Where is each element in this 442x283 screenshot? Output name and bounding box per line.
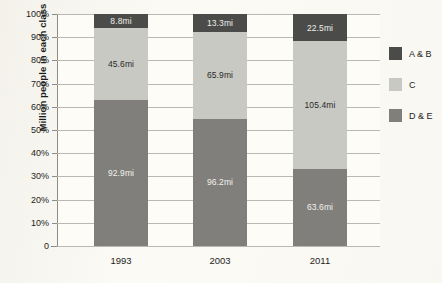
y-axis-tick-label: 30%	[31, 171, 49, 181]
legend-swatch	[389, 78, 402, 91]
bar-segment-value: 13.3mi	[207, 18, 233, 28]
bar-segment-value: 105.4mi	[305, 100, 336, 110]
bar-segment-a-b[interactable]: 8.8mi	[94, 14, 148, 28]
x-axis-label-1993: 1993	[94, 255, 148, 266]
y-axis-tick	[52, 153, 57, 154]
bar-segment-value: 63.6mi	[307, 202, 333, 212]
y-axis-tick	[52, 130, 57, 131]
y-axis-tick	[52, 60, 57, 61]
legend-swatch	[389, 109, 402, 122]
bar-segment-a-b[interactable]: 13.3mi	[193, 14, 247, 32]
x-axis-label-2003: 2003	[193, 255, 247, 266]
legend-item-a-b[interactable]: A & B	[389, 47, 433, 60]
bar-segment-value: 22.5mi	[307, 23, 333, 33]
bar-segment-d-e[interactable]: 63.6mi	[293, 169, 347, 246]
y-axis-tick-label: 50%	[31, 125, 49, 135]
y-axis-tick	[52, 176, 57, 177]
legend-item-c[interactable]: C	[389, 78, 433, 91]
bar-segment-c[interactable]: 105.4mi	[293, 41, 347, 169]
y-axis-tick	[52, 223, 57, 224]
y-axis-tick	[52, 200, 57, 201]
y-axis-tick	[52, 84, 57, 85]
bar-segment-value: 65.9mi	[207, 70, 233, 80]
bar-segment-c[interactable]: 65.9mi	[193, 32, 247, 119]
bar-segment-d-e[interactable]: 92.9mi	[94, 100, 148, 246]
bar-2003[interactable]: 13.3mi65.9mi96.2mi2003	[193, 14, 247, 246]
stacked-bar-chart: Million people in each class 100%90%80%7…	[0, 0, 442, 283]
y-axis-tick	[52, 246, 57, 247]
y-axis-tick-label: 90%	[31, 32, 49, 42]
bar-segment-a-b[interactable]: 22.5mi	[293, 14, 347, 41]
plot-area: 100%90%80%70%60%50%40%30%20%10%0 8.8mi45…	[57, 14, 380, 246]
y-axis-tick-label: 60%	[31, 102, 49, 112]
legend: A & BCD & E	[389, 47, 433, 122]
y-axis-tick-label: 20%	[31, 195, 49, 205]
y-axis-tick-label: 100%	[26, 9, 49, 19]
bar-segment-value: 96.2mi	[207, 177, 233, 187]
legend-item-d-e[interactable]: D & E	[389, 109, 433, 122]
y-axis-tick-label: 80%	[31, 55, 49, 65]
bar-1993[interactable]: 8.8mi45.6mi92.9mi1993	[94, 14, 148, 246]
legend-label: C	[409, 80, 416, 90]
bar-segment-value: 8.8mi	[110, 16, 131, 26]
y-axis-tick	[52, 107, 57, 108]
y-axis-tick	[52, 14, 57, 15]
legend-swatch	[389, 47, 402, 60]
bar-segment-value: 92.9mi	[108, 168, 134, 178]
bar-2011[interactable]: 22.5mi105.4mi63.6mi2011	[293, 14, 347, 246]
bar-segment-value: 45.6mi	[108, 59, 134, 69]
bar-segment-c[interactable]: 45.6mi	[94, 28, 148, 100]
grid-line	[57, 246, 380, 247]
y-axis-tick-label: 70%	[31, 79, 49, 89]
bar-segment-d-e[interactable]: 96.2mi	[193, 119, 247, 246]
y-axis-tick-label: 10%	[31, 218, 49, 228]
legend-label: D & E	[409, 111, 433, 121]
y-axis-tick-label: 0	[44, 241, 49, 251]
legend-label: A & B	[409, 49, 432, 59]
x-axis-label-2011: 2011	[293, 255, 347, 266]
y-axis-tick	[52, 37, 57, 38]
y-axis-tick-label: 40%	[31, 148, 49, 158]
